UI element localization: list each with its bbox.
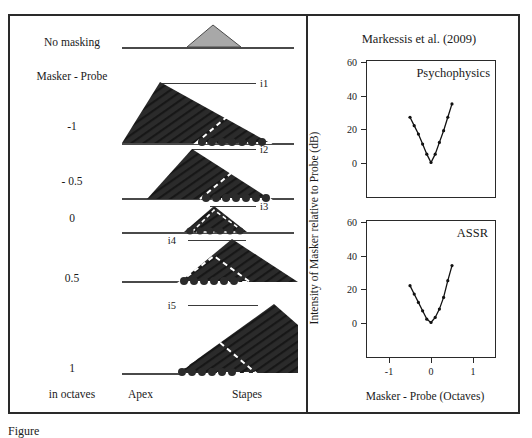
masker-excitation-row-minus-0.5 [122,146,298,202]
cochlea-excitation-panel: No masking Masker - Probe -1 - 0.5 0 0.5… [10,16,304,412]
chart-assr-xtick-mark-0 [431,358,432,363]
figure-root: No masking Masker - Probe -1 - 0.5 0 0.5… [0,0,532,438]
chart-assr-ytick-label-60: 60 [347,217,357,228]
label-no-masking: No masking [44,36,100,48]
chart-assr-xtick-label--1: -1 [385,366,393,377]
chart-assr-xtick-label-0: 0 [429,366,434,377]
masker-excitation-row-minus-1 [122,80,298,146]
masker-excitation-row-0.5 [122,236,298,284]
chart-psychophysics-ytick-label-20: 20 [347,124,357,135]
row-label-0: 0 [69,212,75,224]
chart-psychophysics-ytick-label-60: 60 [347,57,357,68]
chart-assr: ASSR 0204060-101 [366,220,496,358]
figure-caption: Figure [8,424,39,438]
row-label-minus-1: -1 [67,120,77,132]
chart-assr-ytick-label-20: 20 [347,284,357,295]
row-label-1: 1 [69,362,75,374]
chart-assr-series [366,220,496,358]
chart-assr-xtick-mark-1 [473,358,474,363]
axis-label-apex: Apex [128,388,153,400]
tuning-curves-panel: Markessis et al. (2009) Intensity of Mas… [308,16,530,412]
row-label-0.5: 0.5 [65,272,79,284]
chart-assr-ytick-label-40: 40 [347,250,357,261]
chart-assr-xtick-mark--1 [389,358,390,363]
masker-excitation-row-1 [122,301,298,375]
chart-assr-xtick-label-1: 1 [471,366,476,377]
masker-excitation-row-0 [122,204,298,234]
axis-label-stapes: Stapes [232,388,262,400]
row-label-minus-0.5: - 0.5 [61,175,82,187]
reference-title: Markessis et al. (2009) [362,32,477,47]
label-masker-probe: Masker - Probe [37,70,108,82]
chart-assr-ytick-label-0: 0 [352,317,357,328]
axis-label-in-octaves: in octaves [49,388,95,400]
chart-psychophysics-ytick-label-0: 0 [352,157,357,168]
probe-excitation-no-masking [122,21,294,49]
chart-psychophysics-ytick-label-40: 40 [347,90,357,101]
shared-x-axis-label: Masker - Probe (Octaves) [366,390,484,402]
shared-y-axis-label: Intensity of Masker relative to Probe (d… [308,132,320,325]
chart-psychophysics: Psychophysics 0204060 [366,60,496,198]
chart-psychophysics-series [366,60,496,198]
